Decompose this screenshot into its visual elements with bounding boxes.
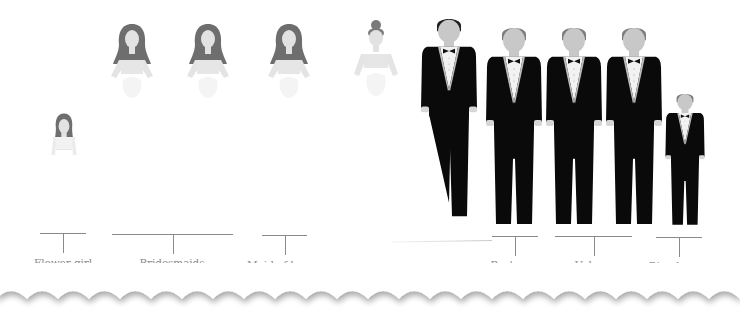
usher-figure — [484, 22, 544, 226]
bridesmaid-figure — [183, 20, 233, 110]
ring-bearer-figure — [664, 90, 706, 226]
flower-girl-figure — [46, 110, 82, 164]
wedding-party-diagram: Flower girl Bridesmaids Maid of honor Be… — [0, 0, 740, 313]
usher-figure — [604, 22, 664, 226]
bridesmaid-figure — [264, 20, 314, 110]
maid-of-honor-figure — [351, 18, 401, 108]
best-man-figure — [419, 14, 479, 226]
bridesmaid-figure — [107, 20, 157, 110]
scalloped-border — [0, 263, 740, 313]
aisle-line — [392, 240, 492, 243]
usher-figure — [544, 22, 604, 226]
